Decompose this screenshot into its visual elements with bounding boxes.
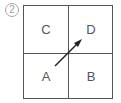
arrow-icon (0, 0, 121, 103)
